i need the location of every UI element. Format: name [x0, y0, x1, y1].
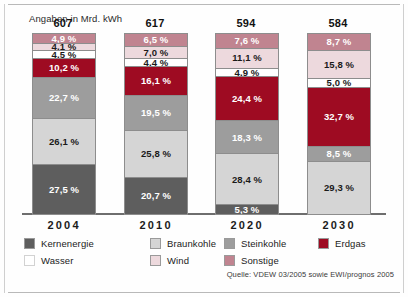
- legend-item-wind[interactable]: Wind: [150, 255, 189, 266]
- bar-segment-erdgas[interactable]: 32,7 %: [308, 87, 370, 146]
- bar-segment-wind[interactable]: 11,1 %: [216, 48, 278, 68]
- segment-value-label: 8,7 %: [327, 37, 352, 47]
- segment-value-label: 4,4 %: [144, 58, 169, 66]
- legend-label: Erdgas: [335, 238, 366, 249]
- bar-segment-braunkohle[interactable]: 28,4 %: [216, 153, 278, 204]
- segment-value-label: 22,7 %: [49, 93, 79, 103]
- legend-item-sonstige[interactable]: Sonstige: [224, 255, 279, 266]
- legend-item-steinkohle[interactable]: Steinkohle: [224, 238, 286, 249]
- segment-value-label: 11,1 %: [232, 53, 262, 63]
- segment-value-label: 4,1 %: [52, 43, 77, 50]
- legend-item-wasser[interactable]: Wasser: [24, 255, 73, 266]
- segment-value-label: 27,5 %: [49, 185, 79, 195]
- legend-label: Wind: [167, 255, 189, 266]
- segment-value-label: 4,5 %: [52, 50, 77, 58]
- segment-value-label: 28,4 %: [232, 175, 262, 185]
- legend-item-kernenergie[interactable]: Kernenergie: [24, 238, 94, 249]
- bar-segment-wind[interactable]: 15,8 %: [308, 50, 370, 78]
- frame-bottom-divider: [8, 292, 400, 293]
- stacked-bar-2010[interactable]: 6,5 %7,0 %4,4 %16,1 %19,5 %25,8 %20,7 %: [124, 33, 188, 215]
- bar-segment-erdgas[interactable]: 10,2 %: [33, 58, 95, 76]
- legend-swatch-icon: [150, 255, 161, 266]
- bar-total-label: 584: [307, 17, 369, 29]
- plot-area: 6074,9 %4,1 %4,5 %10,2 %22,7 %26,1 %27,5…: [0, 0, 408, 215]
- legend-label: Braunkohle: [167, 238, 216, 249]
- bar-segment-sonstige[interactable]: 4,9 %: [33, 34, 95, 43]
- legend-swatch-icon: [318, 238, 329, 249]
- bar-segment-sonstige[interactable]: 8,7 %: [308, 34, 370, 50]
- bar-segment-wind[interactable]: 7,0 %: [125, 46, 187, 59]
- x-axis-label-2030: 2030: [307, 219, 369, 231]
- segment-value-label: 5,3 %: [235, 205, 260, 214]
- segment-value-label: 16,1 %: [141, 76, 171, 86]
- bar-segment-wasser[interactable]: 5,0 %: [308, 78, 370, 87]
- bar-total-label: 607: [32, 17, 94, 29]
- stacked-bar-2004[interactable]: 4,9 %4,1 %4,5 %10,2 %22,7 %26,1 %27,5 %: [32, 33, 96, 215]
- bar-segment-erdgas[interactable]: 24,4 %: [216, 76, 278, 120]
- stacked-bar-2030[interactable]: 8,7 %15,8 %5,0 %32,7 %8,5 %29,3 %: [307, 33, 371, 215]
- segment-value-label: 8,5 %: [327, 149, 352, 159]
- bar-total-label: 594: [215, 17, 277, 29]
- bar-segment-erdgas[interactable]: 16,1 %: [125, 66, 187, 95]
- legend-swatch-icon: [24, 238, 35, 249]
- segment-value-label: 5,0 %: [327, 78, 352, 87]
- bar-segment-wasser[interactable]: 4,4 %: [125, 58, 187, 66]
- bar-segment-wind[interactable]: 4,1 %: [33, 43, 95, 50]
- bar-segment-steinkohle[interactable]: 18,3 %: [216, 120, 278, 153]
- segment-value-label: 10,2 %: [49, 63, 79, 73]
- bar-segment-kernenergie[interactable]: 5,3 %: [216, 204, 278, 214]
- legend-label: Kernenergie: [41, 238, 94, 249]
- bar-segment-kernenergie[interactable]: 20,7 %: [125, 177, 187, 214]
- bar-segment-steinkohle[interactable]: 19,5 %: [125, 95, 187, 130]
- segment-value-label: 20,7 %: [141, 191, 171, 201]
- bar-segment-steinkohle[interactable]: 8,5 %: [308, 146, 370, 161]
- bar-segment-braunkohle[interactable]: 25,8 %: [125, 130, 187, 176]
- x-axis-label-2004: 2004: [32, 219, 94, 231]
- segment-value-label: 7,0 %: [144, 48, 169, 58]
- segment-value-label: 6,5 %: [144, 35, 169, 45]
- x-axis-label-2020: 2020: [215, 219, 277, 231]
- bar-segment-kernenergie[interactable]: 27,5 %: [33, 164, 95, 214]
- segment-value-label: 18,3 %: [232, 133, 262, 143]
- bar-total-label: 617: [124, 17, 186, 29]
- legend-label: Sonstige: [241, 255, 279, 266]
- bar-segment-steinkohle[interactable]: 22,7 %: [33, 77, 95, 118]
- stacked-bar-2020[interactable]: 7,6 %11,1 %4,9 %24,4 %18,3 %28,4 %5,3 %: [215, 33, 279, 215]
- segment-value-label: 29,3 %: [324, 183, 354, 193]
- bar-segment-sonstige[interactable]: 6,5 %: [125, 34, 187, 46]
- bar-segment-sonstige[interactable]: 7,6 %: [216, 34, 278, 48]
- segment-value-label: 26,1 %: [49, 137, 79, 147]
- segment-value-label: 4,9 %: [235, 68, 260, 77]
- legend-item-braunkohle[interactable]: Braunkohle: [150, 238, 216, 249]
- segment-value-label: 7,6 %: [235, 36, 260, 46]
- x-axis-label-2010: 2010: [124, 219, 186, 231]
- segment-value-label: 15,8 %: [324, 60, 354, 70]
- legend-swatch-icon: [150, 238, 161, 249]
- bar-segment-braunkohle[interactable]: 29,3 %: [308, 161, 370, 214]
- legend-swatch-icon: [224, 238, 235, 249]
- source-attribution: Quelle: VDEW 03/2005 sowie EWI/prognos 2…: [227, 270, 394, 279]
- legend-swatch-icon: [224, 255, 235, 266]
- segment-value-label: 25,8 %: [141, 149, 171, 159]
- legend-label: Wasser: [41, 255, 73, 266]
- segment-value-label: 4,9 %: [52, 34, 77, 43]
- bar-segment-wasser[interactable]: 4,5 %: [33, 50, 95, 58]
- bar-segment-wasser[interactable]: 4,9 %: [216, 68, 278, 77]
- bar-segment-braunkohle[interactable]: 26,1 %: [33, 118, 95, 165]
- legend-label: Steinkohle: [241, 238, 286, 249]
- legend-item-erdgas[interactable]: Erdgas: [318, 238, 366, 249]
- legend-swatch-icon: [24, 255, 35, 266]
- segment-value-label: 24,4 %: [232, 94, 262, 104]
- chart-legend: KernenergieWasserBraunkohleWindSteinkohl…: [0, 238, 408, 274]
- energy-mix-chart: Angaben in Mrd. kWh 6074,9 %4,1 %4,5 %10…: [0, 0, 408, 297]
- segment-value-label: 19,5 %: [141, 108, 171, 118]
- segment-value-label: 32,7 %: [324, 112, 354, 122]
